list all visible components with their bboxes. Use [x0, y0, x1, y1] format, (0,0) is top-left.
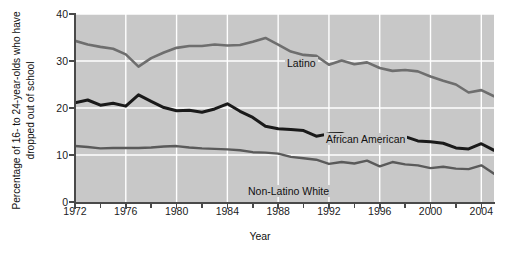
y-tick-mark — [69, 154, 74, 156]
x-tick-mark — [277, 203, 279, 209]
series-label-non-latino-white: Non-Latino White — [246, 185, 331, 197]
y-tick-label: 30 — [42, 56, 68, 67]
series-label-latino: Latino — [285, 57, 318, 69]
y-tick-mark — [69, 107, 74, 109]
x-axis-title: Year — [0, 230, 512, 242]
y-tick-mark — [69, 60, 74, 62]
x-tick-mark — [430, 203, 432, 209]
x-tick-mark — [125, 203, 127, 209]
y-axis-title: Percentage of 16- to 24-year-olds who ha… — [10, 0, 37, 226]
x-tick-mark — [150, 203, 152, 208]
x-tick-mark — [100, 203, 102, 208]
plot-area: Latino African American Non-Latino White — [75, 14, 494, 202]
y-axis-line — [74, 13, 76, 203]
x-axis-line — [74, 202, 495, 204]
x-tick-mark — [379, 203, 381, 209]
gridlines — [75, 14, 494, 202]
x-tick-mark — [455, 203, 457, 208]
x-tick-mark — [252, 203, 254, 208]
y-tick-label: 40 — [42, 9, 68, 20]
x-tick-mark — [404, 203, 406, 208]
x-tick-mark — [481, 203, 483, 209]
y-tick-label: 20 — [42, 103, 68, 114]
x-tick-mark — [354, 203, 356, 208]
x-tick-mark — [176, 203, 178, 209]
y-tick-mark — [69, 13, 74, 15]
x-axis-title-text: Year — [249, 230, 270, 242]
chart-figure: Percentage of 16- to 24-year-olds who ha… — [0, 0, 512, 255]
x-tick-mark — [74, 203, 76, 209]
plot-svg — [75, 14, 494, 202]
x-tick-mark — [227, 203, 229, 209]
x-tick-mark — [303, 203, 305, 208]
y-tick-label: 10 — [42, 150, 68, 161]
x-tick-mark — [201, 203, 203, 208]
x-tick-mark — [328, 203, 330, 209]
y-tick-mark — [69, 201, 74, 203]
x-axis-ticks: 197219761980198419881992199620002004 — [0, 206, 512, 226]
series-label-african-american: African American — [324, 133, 407, 145]
